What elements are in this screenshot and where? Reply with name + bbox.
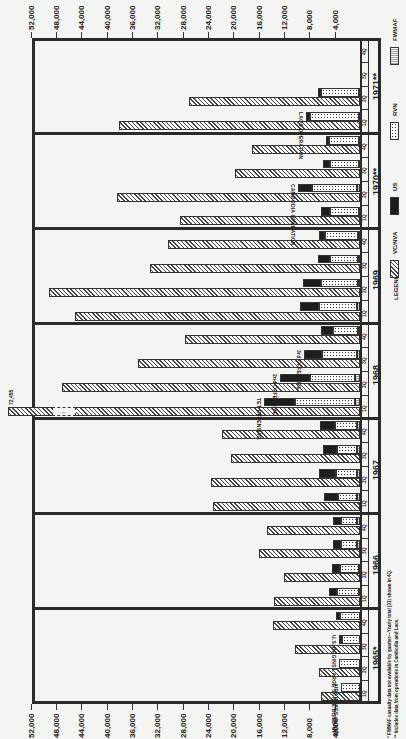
bar-fwmaf bbox=[358, 279, 360, 288]
quarter-divider bbox=[360, 157, 369, 158]
axis-tick-top bbox=[335, 32, 336, 38]
quarter-label: 3Q bbox=[361, 167, 367, 174]
axis-label-bottom: 24,000 bbox=[204, 714, 213, 738]
bar-vc-nva bbox=[222, 430, 360, 439]
bar-vc-nva bbox=[235, 169, 360, 178]
bar-fwmaf bbox=[357, 540, 360, 549]
bar-annotation: LAOS OPERATION bbox=[298, 112, 304, 159]
axis-label-bottom: 44,000 bbox=[77, 714, 86, 738]
bar-fwmaf bbox=[357, 184, 360, 193]
bar-us bbox=[329, 588, 337, 597]
bar-us bbox=[304, 350, 322, 359]
quarter-label: 2Q bbox=[361, 286, 367, 293]
bar-vc-nva bbox=[274, 597, 360, 606]
axis-tick-top bbox=[56, 32, 57, 38]
bar-us bbox=[318, 88, 321, 97]
axis-label-top: 52,000 bbox=[27, 6, 36, 30]
bar-us bbox=[300, 302, 319, 311]
bar-rvn bbox=[333, 326, 358, 335]
bar-us bbox=[303, 279, 321, 288]
bar-vc-nva bbox=[295, 645, 360, 654]
quarter-divider bbox=[360, 62, 369, 63]
axis-tick-bottom bbox=[107, 704, 108, 710]
axis-label-bottom: 8,000 bbox=[305, 718, 314, 738]
axis-tick-bottom bbox=[81, 704, 82, 710]
quarter-divider bbox=[360, 86, 369, 87]
bar-vc-nva bbox=[150, 264, 360, 273]
bar-fwmaf bbox=[359, 588, 361, 597]
quarter-label: 2Q bbox=[361, 476, 367, 483]
bar-us bbox=[323, 445, 336, 454]
bar-vc-nva bbox=[180, 216, 360, 225]
legend-label-fw: FWMAF bbox=[392, 19, 398, 41]
axis-tick-bottom bbox=[157, 704, 158, 710]
bar-vc-nva bbox=[252, 145, 360, 154]
bar-us bbox=[324, 493, 338, 502]
bar-rvn bbox=[341, 517, 357, 526]
axis-tick-top bbox=[233, 32, 234, 38]
bar-vc-nva bbox=[117, 193, 360, 202]
axis-tick-top bbox=[107, 32, 108, 38]
axis-label-top: 24,000 bbox=[204, 6, 213, 30]
bar-rvn bbox=[321, 88, 358, 97]
quarter-divider bbox=[360, 538, 369, 539]
axis-tick-bottom bbox=[56, 704, 57, 710]
axis-label-top: 20,000 bbox=[229, 6, 238, 30]
legend-label-rvn: RVN bbox=[392, 103, 398, 116]
bar-rvn bbox=[295, 398, 355, 407]
quarter-label: 3Q bbox=[361, 357, 367, 364]
bar-fwmaf bbox=[357, 493, 360, 502]
quarter-label: 4Q bbox=[361, 429, 367, 436]
quarter-label: 2Q bbox=[361, 96, 367, 103]
axis-tick-top bbox=[309, 32, 310, 38]
legend-title: LEGEND bbox=[393, 275, 399, 300]
axis-tick-top bbox=[157, 32, 158, 38]
quarter-divider bbox=[360, 466, 369, 467]
quarter-label: 3Q bbox=[361, 548, 367, 555]
quarter-label: 1Q bbox=[361, 500, 367, 507]
year-label: 1971** bbox=[371, 73, 381, 100]
bar-us bbox=[323, 160, 329, 169]
quarter-divider bbox=[360, 442, 369, 443]
bar-rvn bbox=[340, 612, 360, 621]
legend-label-us: US bbox=[392, 183, 398, 191]
bar-us bbox=[326, 136, 329, 145]
axis-label-bottom: 36,000 bbox=[128, 714, 137, 738]
bar-us bbox=[333, 517, 341, 526]
axis-tick-top bbox=[183, 32, 184, 38]
quarter-label: 4Q bbox=[361, 334, 367, 341]
quarter-divider bbox=[360, 371, 369, 372]
bar-us bbox=[332, 564, 340, 573]
bar-fwmaf bbox=[357, 445, 360, 454]
quarter-label: 1Q bbox=[361, 595, 367, 602]
bar-fwmaf bbox=[359, 160, 361, 169]
legend-label-vc: VC/NVA bbox=[392, 232, 398, 254]
axis-tick-top bbox=[31, 32, 32, 38]
bar-vc-nva bbox=[319, 668, 360, 677]
axis-label-top: 36,000 bbox=[128, 6, 137, 30]
bar-vc-nva bbox=[259, 549, 360, 558]
axis-label-bottom: 16,000 bbox=[255, 714, 264, 738]
quarter-label: 1Q bbox=[361, 215, 367, 222]
axis-label-top: 4,000 bbox=[331, 10, 340, 30]
bar-fwmaf bbox=[358, 326, 360, 335]
broken-value-label: 72,455 bbox=[8, 390, 14, 405]
axis-label-bottom: 52,000 bbox=[27, 714, 36, 738]
bar-us bbox=[321, 326, 332, 335]
quarter-divider bbox=[360, 252, 369, 253]
bar-annotation: U.S. BEGINS LARGE SCALE BUILD-UP bbox=[331, 635, 337, 734]
bar-rvn bbox=[339, 659, 360, 668]
bar-us bbox=[319, 469, 336, 478]
bar-us bbox=[321, 207, 331, 216]
quarter-label: 2Q bbox=[361, 572, 367, 579]
bar-fwmaf bbox=[357, 469, 360, 478]
year-divider bbox=[32, 322, 381, 325]
quarter-divider bbox=[360, 395, 369, 396]
quarter-divider bbox=[360, 633, 369, 634]
year-label: 1970** bbox=[371, 168, 381, 195]
bar-rvn bbox=[342, 635, 360, 644]
bar-annotation: CAMBODIA OPERATION bbox=[290, 184, 296, 246]
quarter-label: 2Q bbox=[361, 667, 367, 674]
bar-vc-nva bbox=[189, 97, 360, 106]
bar-rvn bbox=[337, 445, 357, 454]
